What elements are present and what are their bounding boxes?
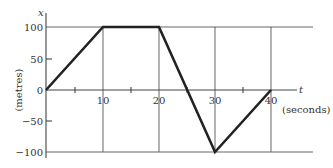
x-tick-label-40: 40	[265, 95, 278, 106]
x-tick-label-20: 20	[153, 95, 166, 106]
x-tick-label-30: 30	[209, 95, 222, 106]
y-axis-variable: x	[38, 7, 44, 18]
y-tick-label-0: 0	[37, 85, 43, 96]
y-tick-label-100: 100	[24, 22, 43, 33]
y-tick-label-neg100: −100	[16, 147, 43, 158]
x-tick-label-10: 10	[97, 95, 110, 106]
x-unit-label: (seconds)	[282, 104, 331, 115]
position-time-chart: x t 100 50 0 −50 −100 10 20 30 40 (secon…	[0, 0, 333, 168]
y-unit-label: (metres)	[13, 68, 24, 111]
y-tick-label-50: 50	[30, 54, 43, 65]
y-tick-label-neg50: −50	[22, 116, 43, 127]
x-axis-variable: t	[299, 84, 304, 95]
